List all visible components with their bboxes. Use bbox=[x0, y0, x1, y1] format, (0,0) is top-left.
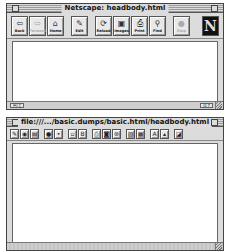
find-button[interactable]: ⚲Find bbox=[149, 16, 166, 36]
insert-table-icon[interactable]: ▦ bbox=[136, 129, 145, 139]
browse-icon[interactable]: ⊛ bbox=[112, 129, 121, 139]
printer-icon: ⎙ bbox=[137, 19, 143, 29]
button-label: Stop bbox=[177, 29, 186, 34]
editor-window: file:///.../basic.dumps/basic.html/headb… bbox=[6, 117, 224, 251]
resize-grip[interactable] bbox=[215, 243, 222, 250]
netscape-logo-icon[interactable]: N bbox=[202, 16, 219, 36]
editor-status-bar bbox=[7, 242, 223, 250]
properties-icon[interactable]: ◪ bbox=[174, 129, 183, 139]
back-arrow-icon: ⇦ bbox=[16, 19, 23, 29]
images-button[interactable]: ▣Images bbox=[113, 16, 130, 36]
browser-window: Netscape: headbody.html ⇦Back⇨Forward⌂Ho… bbox=[6, 3, 224, 110]
forward-arrow-icon: ⇨ bbox=[34, 19, 41, 29]
edit-button[interactable]: ✎Edit bbox=[71, 16, 88, 36]
window-title: Netscape: headbody.html bbox=[62, 4, 169, 13]
images-icon: ▣ bbox=[118, 19, 126, 29]
button-label: Print bbox=[135, 29, 145, 34]
editor-title-bar[interactable]: file:///.../basic.dumps/basic.html/headb… bbox=[7, 118, 223, 127]
editor-toolbar: ✎◉▤●•▫B⎙◙⊛▨▦A▴◪ bbox=[7, 127, 223, 141]
browser-toolbar: ⇦Back⇨Forward⌂Home✎Edit⟳Reload▣Images⎙Pr… bbox=[7, 13, 223, 39]
back-button[interactable]: ⇦Back bbox=[11, 16, 28, 36]
insert-image-icon[interactable]: ▨ bbox=[126, 129, 135, 139]
zoom-box[interactable] bbox=[211, 119, 218, 126]
pencil-icon: ✎ bbox=[76, 19, 83, 29]
bullet-dark-icon[interactable]: ● bbox=[44, 129, 53, 139]
paste-icon[interactable]: B bbox=[78, 129, 87, 139]
close-box[interactable] bbox=[12, 5, 19, 12]
print-button[interactable]: ⎙Print bbox=[131, 16, 148, 36]
window-title: file:///.../basic.dumps/basic.html/headb… bbox=[18, 118, 212, 127]
button-label: Home bbox=[50, 29, 62, 34]
publish-icon[interactable]: ◙ bbox=[102, 129, 111, 139]
font-size-down-icon[interactable]: ▴ bbox=[160, 129, 169, 139]
stop-icon: ● bbox=[178, 19, 185, 29]
zoom-box[interactable] bbox=[211, 5, 218, 12]
editor-content-area[interactable] bbox=[12, 143, 218, 243]
stop-button[interactable]: ●Stop bbox=[173, 16, 190, 36]
button-label: Back bbox=[15, 29, 25, 34]
browser-title-bar[interactable]: Netscape: headbody.html bbox=[7, 4, 223, 13]
font-size-up-icon[interactable]: A bbox=[150, 129, 159, 139]
new-document-icon[interactable]: ✎ bbox=[10, 129, 19, 139]
forward-button[interactable]: ⇨Forward bbox=[29, 16, 46, 36]
home-button[interactable]: ⌂Home bbox=[47, 16, 64, 36]
button-label: Edit bbox=[76, 29, 84, 34]
bullet-light-icon[interactable]: • bbox=[54, 129, 63, 139]
copy-icon[interactable]: ▫ bbox=[68, 129, 77, 139]
button-label: Find bbox=[153, 29, 162, 34]
print-icon[interactable]: ⎙ bbox=[92, 129, 101, 139]
reload-button[interactable]: ⟳Reload bbox=[95, 16, 112, 36]
home-icon: ⌂ bbox=[53, 19, 58, 29]
component-status[interactable]: ⊡ ? bbox=[200, 103, 213, 108]
binoculars-icon: ⚲ bbox=[155, 19, 161, 29]
browser-content-area[interactable] bbox=[12, 41, 218, 103]
save-icon[interactable]: ▤ bbox=[30, 129, 39, 139]
button-label: Reload bbox=[97, 29, 111, 34]
resize-grip[interactable] bbox=[215, 102, 222, 109]
reload-icon: ⟳ bbox=[100, 19, 107, 29]
button-label: Forward bbox=[29, 29, 46, 34]
browser-status-bar: ✉/♫ ⊡ ? bbox=[7, 101, 223, 109]
security-status[interactable]: ✉/♫ bbox=[10, 103, 24, 108]
button-label: Images bbox=[114, 29, 129, 34]
open-icon[interactable]: ◉ bbox=[20, 129, 29, 139]
